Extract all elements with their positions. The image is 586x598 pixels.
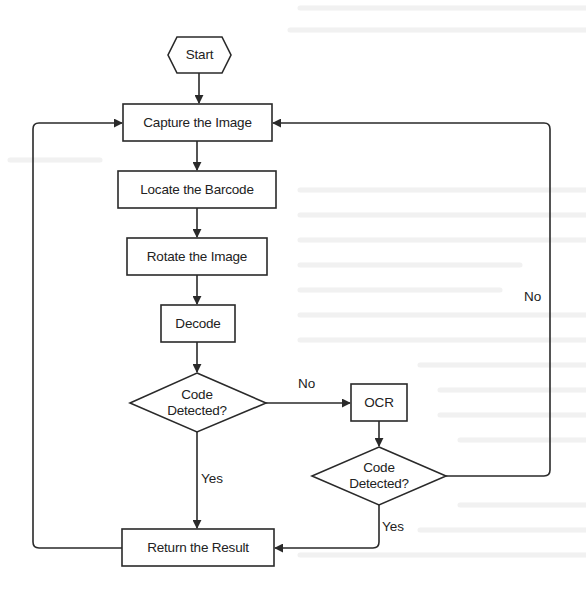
decode-label: Decode xyxy=(175,316,220,332)
locate-label: Locate the Barcode xyxy=(140,182,253,198)
edge-decision2-result xyxy=(275,505,379,548)
capture-label: Capture the Image xyxy=(143,115,251,131)
edge-label-decision1-yes: Yes xyxy=(201,471,223,487)
ocr-node: OCR xyxy=(351,384,407,421)
capture-node: Capture the Image xyxy=(123,104,272,141)
rotate-node: Rotate the Image xyxy=(127,238,267,275)
edge-label-decision2-yes: Yes xyxy=(382,519,404,535)
decision2-label-line1: Code xyxy=(363,460,394,476)
decision1-label-line2: Detected? xyxy=(167,403,227,419)
result-node: Return the Result xyxy=(122,529,274,566)
edge-decision2-capture xyxy=(273,123,550,476)
ocr-label: OCR xyxy=(364,395,393,411)
decode-node: Decode xyxy=(161,305,235,342)
decision2-label-line2: Detected? xyxy=(349,476,409,492)
edge-result-capture xyxy=(33,123,122,548)
locate-node: Locate the Barcode xyxy=(118,171,276,208)
start-label: Start xyxy=(186,47,214,63)
edge-label-decision1-no: No xyxy=(298,376,315,392)
result-label: Return the Result xyxy=(147,540,249,556)
rotate-label: Rotate the Image xyxy=(147,249,247,265)
decision1-node: Code Detected? xyxy=(140,383,254,423)
start-node: Start xyxy=(168,37,231,73)
edge-label-decision2-no: No xyxy=(524,289,541,305)
decision2-node: Code Detected? xyxy=(322,456,436,496)
decision1-label-line1: Code xyxy=(181,387,212,403)
flowchart-canvas xyxy=(0,0,586,598)
